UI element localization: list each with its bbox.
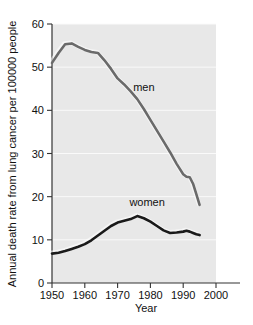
lung-cancer-death-rate-chart: 0102030405060 195019601970198019902000 m…: [0, 0, 253, 325]
x-tick-label: 1980: [138, 289, 162, 301]
y-tick-label: 0: [38, 277, 44, 289]
series-label-women: women: [128, 196, 164, 208]
y-tick-label: 10: [32, 234, 44, 246]
y-tick-label: 20: [32, 191, 44, 203]
x-tick-label: 1990: [171, 289, 195, 301]
y-axis-title: Annual death rate from lung cancer per 1…: [6, 21, 18, 288]
x-tick-label: 1960: [73, 289, 97, 301]
x-tick-label: 1950: [40, 289, 64, 301]
y-tick-label: 60: [32, 18, 44, 30]
x-tick-label: 1970: [105, 289, 129, 301]
y-tick-label: 50: [32, 61, 44, 73]
chart-svg: 0102030405060 195019601970198019902000 m…: [0, 0, 253, 325]
x-tick-label: 2000: [204, 289, 228, 301]
x-axis-title: Year: [135, 302, 158, 314]
y-tick-label: 30: [32, 148, 44, 160]
series-label-men: men: [133, 81, 154, 93]
y-tick-label: 40: [32, 104, 44, 116]
